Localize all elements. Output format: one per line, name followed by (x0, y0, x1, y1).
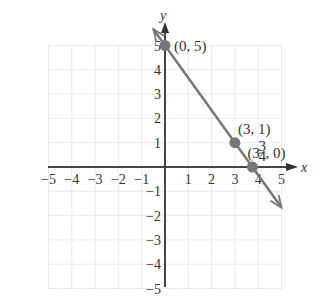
y-tick-label: 4 (154, 63, 161, 78)
x-axis-label: x (300, 160, 308, 175)
svg-text:, 0): , 0) (265, 145, 285, 162)
y-tick-label: −3 (146, 233, 161, 248)
y-axis-label: y (158, 8, 167, 23)
data-point (247, 162, 258, 173)
y-tick-label: −4 (146, 257, 161, 272)
points: (0, 5)(3, 1)(334, 0) (160, 38, 286, 173)
y-tick-label: 2 (154, 111, 161, 126)
point-label: (334, 0) (247, 138, 285, 164)
point-label: (3, 1) (238, 121, 271, 138)
x-axis-arrow-icon (286, 163, 298, 171)
coordinate-plane: x y −5−4−3−2−112345 54321−1−2−3−4−5 (0, … (0, 0, 321, 300)
point-label: (0, 5) (174, 38, 207, 55)
x-tick-label: 5 (278, 172, 285, 187)
y-tick-label: −2 (146, 209, 161, 224)
x-tick-label: −5 (41, 172, 56, 187)
y-tick-label: 1 (154, 136, 161, 151)
x-tick-label: 1 (185, 172, 192, 187)
x-tick-label: 3 (231, 172, 238, 187)
x-tick-label: −2 (111, 172, 126, 187)
y-axis-arrow-icon (161, 22, 169, 33)
x-tick-label: −3 (88, 172, 103, 187)
data-point (229, 137, 240, 148)
x-tick-label: 2 (208, 172, 215, 187)
y-tick-label: −5 (146, 282, 161, 297)
x-tick-label: −4 (64, 172, 79, 187)
x-tick-labels: −5−4−3−2−112345 (41, 172, 285, 187)
data-point (160, 40, 171, 51)
y-tick-label: 3 (154, 87, 161, 102)
y-tick-label: −1 (146, 184, 161, 199)
